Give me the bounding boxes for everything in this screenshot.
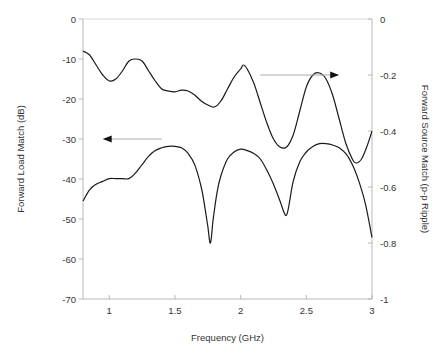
arrow-left-icon: [103, 136, 112, 143]
arrow-left-annotation: [103, 136, 162, 143]
chart-figure: 0-10-20-30-40-50-60-70 0-0.2-0.4-0.6-0.8…: [0, 0, 445, 359]
left-tick-label: -40: [62, 174, 76, 185]
left-tick-label: -60: [62, 254, 76, 265]
right-tick-label: -1: [380, 294, 388, 305]
x-axis-ticks: 11.522.53: [107, 295, 375, 316]
left-tick-label: -10: [62, 54, 76, 65]
left-tick-label: 0: [71, 14, 76, 25]
left-y-axis-title: Forward Load Match (dB): [15, 105, 26, 213]
x-axis-title: Frequency (GHz): [191, 332, 264, 343]
series-line-forward-load-match: [83, 51, 372, 163]
left-tick-label: -20: [62, 94, 76, 105]
x-tick-label: 2.5: [300, 305, 313, 316]
right-y-axis-title: Forward Source Match (p-p Ripple): [420, 85, 431, 233]
x-tick-label: 2: [238, 305, 243, 316]
right-tick-label: -0.4: [380, 126, 396, 137]
left-tick-label: -50: [62, 214, 76, 225]
left-tick-label: -70: [62, 294, 76, 305]
arrow-right-annotation: [260, 72, 339, 79]
right-tick-label: -0.8: [380, 238, 396, 249]
right-tick-label: -0.2: [380, 70, 396, 81]
series-line-forward-source-match: [83, 143, 372, 243]
x-tick-label: 3: [369, 305, 374, 316]
right-tick-label: -0.6: [380, 182, 396, 193]
left-tick-label: -30: [62, 134, 76, 145]
x-tick-label: 1: [107, 305, 112, 316]
arrow-right-icon: [330, 72, 339, 79]
x-tick-label: 1.5: [168, 305, 181, 316]
left-y-axis-ticks: 0-10-20-30-40-50-60-70: [62, 14, 83, 305]
right-tick-label: 0: [380, 14, 385, 25]
